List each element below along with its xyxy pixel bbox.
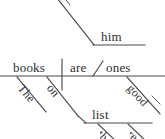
partial-edge-mark bbox=[152, 96, 160, 104]
word-list: list bbox=[92, 108, 109, 121]
word-are: are bbox=[70, 61, 86, 74]
sentence-diagram: him books are ones The on good list the … bbox=[0, 0, 165, 139]
word-him: him bbox=[101, 30, 122, 43]
bottom-modifier-clip-the: the bbox=[100, 126, 128, 139]
upper-diagonal-line bbox=[57, 0, 94, 45]
word-re-modifier: re bbox=[130, 128, 141, 139]
verb-complement-divider bbox=[93, 61, 103, 76]
preposition-to-object-line bbox=[78, 116, 86, 123]
word-books: books bbox=[13, 61, 45, 74]
word-the-list-article: the bbox=[100, 128, 114, 139]
word-ones: ones bbox=[106, 61, 131, 74]
bottom-modifier-clip-re: re bbox=[130, 126, 160, 139]
upper-diagonal-stub bbox=[66, 0, 70, 5]
